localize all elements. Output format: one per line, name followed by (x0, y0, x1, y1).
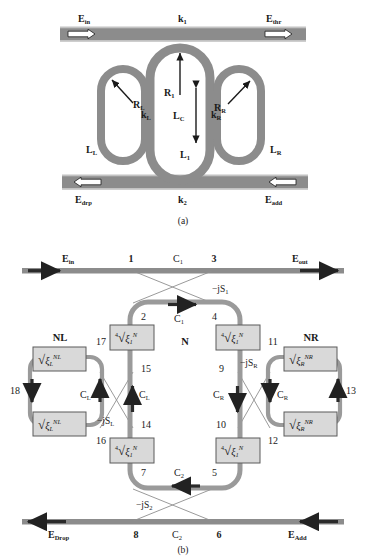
node-number-11: 11 (268, 336, 278, 347)
gain-box-center-bottom-right: 4√ξ1N (216, 438, 260, 463)
gain-box-right-top: √ξRNR (284, 347, 337, 371)
node-number-10: 10 (216, 419, 226, 430)
gain-box-right-bottom: √ξRNR (284, 412, 337, 436)
node-number-1: 1 (129, 253, 134, 264)
node-number-7: 7 (141, 467, 146, 478)
node-number-12: 12 (268, 435, 278, 446)
ring-name-NL: NL (53, 332, 68, 343)
node-number-9: 9 (219, 363, 224, 374)
node-number-5: 5 (212, 467, 217, 478)
panel-a-caption: (a) (178, 216, 189, 227)
node-number-15: 15 (141, 363, 151, 374)
gain-box-left-bottom: √ξLNL (33, 412, 86, 436)
node-number-17: 17 (96, 336, 106, 347)
node-number-16: 16 (96, 435, 106, 446)
node-number-3: 3 (212, 253, 217, 264)
node-number-18: 18 (10, 385, 20, 396)
gain-box-center-top-right: 4√ξ1N (216, 325, 260, 350)
node-number-4: 4 (212, 311, 217, 322)
gain-box-center-top-left: 4√ξ1N (110, 325, 154, 350)
node-number-13: 13 (346, 385, 356, 396)
figure-svg: Ein k1 Ethr Edrp k2 Eadd RL R1 RR kL (0, 0, 366, 558)
panel-b-bottom-bus (22, 519, 344, 525)
panel-b-caption: (b) (177, 545, 188, 556)
panel-b-top-bus (22, 268, 344, 274)
gain-box-left-top: √ξLNL (33, 347, 86, 371)
gain-box-center-bottom-left: 4√ξ1N (110, 438, 154, 463)
ring-name-NR: NR (303, 332, 319, 343)
figure-root: Ein k1 Ethr Edrp k2 Eadd RL R1 RR kL (0, 0, 366, 558)
node-number-14: 14 (141, 419, 151, 430)
ring-name-N: N (181, 336, 189, 347)
node-number-2: 2 (141, 311, 146, 322)
node-number-8: 8 (134, 529, 139, 540)
node-number-6: 6 (217, 529, 222, 540)
